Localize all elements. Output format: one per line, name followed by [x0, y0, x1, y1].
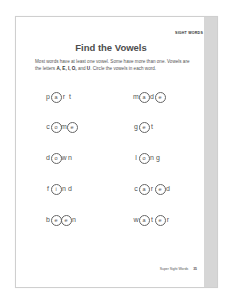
word-item: water — [133, 214, 171, 226]
letter: d — [67, 183, 73, 195]
word-item: down — [45, 152, 73, 164]
section-tag: Sight Words — [175, 31, 203, 35]
worksheet-page: Sight Words Find the Vowels Most words h… — [15, 16, 218, 288]
word-item: get — [133, 121, 155, 133]
letter: t — [149, 121, 155, 133]
word-item: made — [133, 91, 165, 103]
letter: d — [165, 183, 171, 195]
word-item: find — [45, 183, 73, 195]
letter: n — [67, 152, 73, 164]
intro-text: . Circle the vowels in each word. — [90, 66, 156, 71]
word-item: long — [133, 152, 161, 164]
letter: r — [165, 214, 171, 226]
instructions: Most words have at least one vowel. Some… — [35, 59, 195, 72]
page-number: 35 — [193, 267, 197, 271]
letter: g — [155, 152, 161, 164]
page-edge-strip — [204, 17, 217, 287]
circled-vowel[interactable]: o — [51, 122, 62, 133]
page-title: Find the Vowels — [16, 42, 206, 53]
word-item: part — [45, 91, 73, 103]
circled-vowel[interactable]: o — [51, 153, 62, 164]
word-item: been — [45, 214, 77, 226]
circled-vowel[interactable]: e — [51, 215, 62, 226]
circled-vowel[interactable]: e — [67, 122, 78, 133]
circled-vowel[interactable]: e — [155, 184, 166, 195]
book-title: Super Sight Words — [160, 267, 188, 271]
letter: t — [67, 91, 73, 103]
circled-vowel[interactable]: a — [139, 215, 150, 226]
circled-vowel[interactable]: e — [139, 122, 150, 133]
circled-vowel[interactable]: a — [139, 184, 150, 195]
letter: n — [71, 214, 77, 226]
page-footer: Super Sight Words35 — [160, 267, 197, 271]
circled-vowel[interactable]: a — [139, 92, 150, 103]
circled-vowel[interactable]: a — [51, 92, 62, 103]
word-item: come — [45, 121, 77, 133]
intro-text: and — [77, 66, 87, 71]
circled-vowel[interactable]: o — [139, 153, 150, 164]
vowel-letters: A, E, I, O, — [56, 66, 76, 71]
circled-vowel[interactable]: e — [155, 92, 166, 103]
word-item: cared — [133, 183, 171, 195]
circled-vowel[interactable]: e — [61, 215, 72, 226]
circled-vowel[interactable]: i — [51, 184, 62, 195]
circled-vowel[interactable]: e — [155, 215, 166, 226]
